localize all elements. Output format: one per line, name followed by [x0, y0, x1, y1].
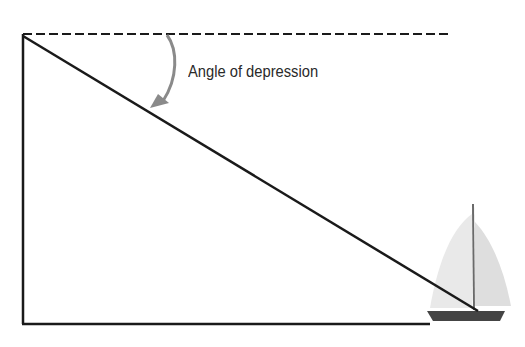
angle-arrow-icon	[150, 35, 175, 108]
angle-of-depression-label: Angle of depression	[188, 63, 318, 81]
sailboat-icon	[427, 204, 511, 321]
angle-of-depression-diagram	[0, 0, 525, 347]
mast	[473, 204, 474, 310]
hull	[427, 311, 505, 321]
sail-right	[475, 222, 511, 306]
